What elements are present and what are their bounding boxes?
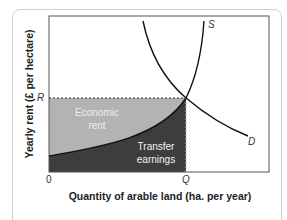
economic-rent-line1: Economic	[72, 106, 122, 119]
economic-rent-label: Economic rent	[72, 106, 122, 132]
rent-diagram	[0, 0, 287, 220]
transfer-earnings-line2: earnings	[131, 153, 181, 166]
y-axis-label: Yearly rent (£ per hectare)	[23, 30, 35, 159]
origin-label: 0	[46, 174, 52, 185]
x-axis-label: Quantity of arable land (ha. per year)	[69, 190, 252, 202]
r-tick-label: R	[37, 92, 44, 103]
supply-label: S	[208, 19, 215, 30]
economic-rent-line2: rent	[72, 119, 122, 132]
demand-label: D	[248, 136, 255, 147]
q-tick-label: Q	[182, 174, 190, 185]
transfer-earnings-line1: Transfer	[131, 140, 181, 153]
transfer-earnings-label: Transfer earnings	[131, 140, 181, 166]
